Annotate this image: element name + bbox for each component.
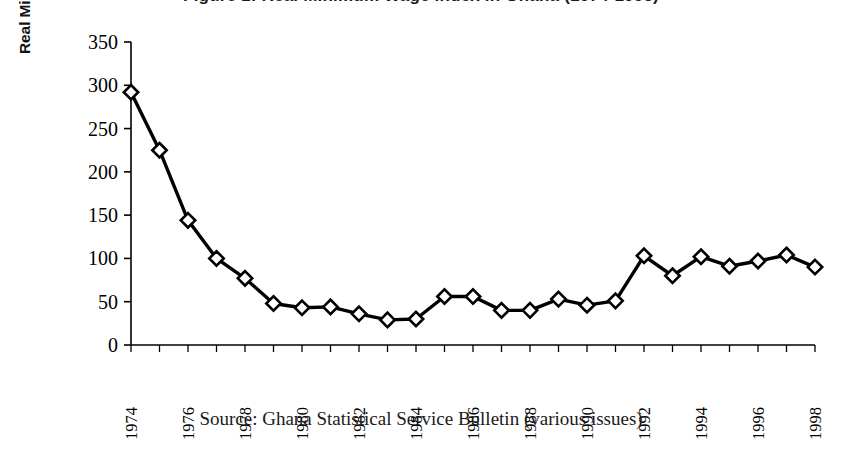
data-point-markers: [124, 85, 822, 327]
data-series-line: [131, 92, 815, 320]
data-point-marker: [779, 248, 793, 262]
y-axis-tick-label: 50: [98, 291, 118, 313]
data-point-marker: [494, 303, 508, 317]
data-point-marker: [722, 259, 736, 273]
source-caption: Source: Ghana Statistical Service Bullet…: [0, 408, 842, 430]
figure-container: Figure 1: Real Minimum Wage Index in Gha…: [0, 0, 842, 455]
data-point-marker: [551, 292, 565, 306]
y-axis-tick-label: 350: [88, 31, 118, 53]
line-chart-svg: 050100150200250300350 197419761978198019…: [0, 0, 842, 455]
x-axis-tick-marks: [131, 345, 815, 352]
y-axis-tick-label: 300: [88, 74, 118, 96]
y-axis-tick-label: 200: [88, 161, 118, 183]
y-axis-tick-label: 0: [108, 334, 118, 356]
data-point-marker: [152, 143, 166, 157]
plot-area: 050100150200250300350 197419761978198019…: [0, 0, 842, 455]
data-point-marker: [124, 85, 138, 99]
y-axis-tick-label: 150: [88, 204, 118, 226]
y-axis-tick-labels: 050100150200250300350: [88, 31, 118, 356]
data-point-marker: [751, 254, 765, 268]
data-point-marker: [580, 298, 594, 312]
data-point-marker: [352, 307, 366, 321]
data-point-marker: [466, 289, 480, 303]
data-point-marker: [380, 313, 394, 327]
data-point-marker: [323, 300, 337, 314]
data-point-marker: [295, 301, 309, 315]
y-axis-tick-label: 250: [88, 118, 118, 140]
data-point-marker: [523, 303, 537, 317]
data-point-marker: [808, 260, 822, 274]
y-axis-tick-label: 100: [88, 247, 118, 269]
